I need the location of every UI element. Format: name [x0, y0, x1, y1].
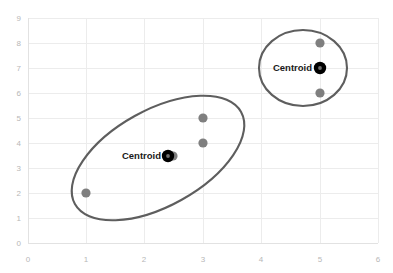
y-tick-label-5: 5 [17, 114, 22, 123]
gridlines-vertical [86, 18, 378, 243]
plot-canvas: 9 8 7 6 5 4 3 2 1 0 0 1 2 3 4 5 6 [0, 0, 393, 273]
y-tick-label-2: 2 [17, 189, 22, 198]
y-tick-label-4: 4 [17, 139, 22, 148]
centroid-c2-marker-core [318, 66, 322, 70]
y-tick-label-6: 6 [17, 89, 22, 98]
cluster-1-group: Centroid [52, 70, 265, 246]
x-tick-label-4: 4 [259, 255, 264, 264]
x-tick-label-5: 5 [318, 255, 323, 264]
x-tick-label-3: 3 [201, 255, 206, 264]
y-tick-label-0: 0 [17, 239, 22, 248]
x-tick-label-2: 2 [142, 255, 147, 264]
y-tick-label-8: 8 [17, 39, 22, 48]
y-tick-label-1: 1 [17, 214, 22, 223]
data-point-c1-p2 [198, 113, 207, 122]
y-tick-label-9: 9 [17, 14, 22, 23]
y-axis-tick-labels: 9 8 7 6 5 4 3 2 1 0 [17, 14, 22, 248]
data-point-c2-p1 [315, 38, 324, 47]
data-point-c1-p3 [198, 138, 207, 147]
centroid-c1-marker-core [166, 154, 170, 158]
y-tick-label-7: 7 [17, 64, 22, 73]
cluster-2-centroid-label: Centroid [273, 62, 312, 73]
cluster-1-centroid-label: Centroid [122, 150, 161, 161]
x-tick-label-1: 1 [84, 255, 89, 264]
data-point-c1-p1 [81, 188, 90, 197]
scatter-plot-figure: 9 8 7 6 5 4 3 2 1 0 0 1 2 3 4 5 6 [0, 0, 393, 273]
x-tick-label-6: 6 [376, 255, 381, 264]
x-tick-label-0: 0 [26, 255, 31, 264]
x-axis-tick-labels: 0 1 2 3 4 5 6 [26, 255, 381, 264]
data-point-c2-p2 [315, 88, 324, 97]
y-tick-label-3: 3 [17, 164, 22, 173]
